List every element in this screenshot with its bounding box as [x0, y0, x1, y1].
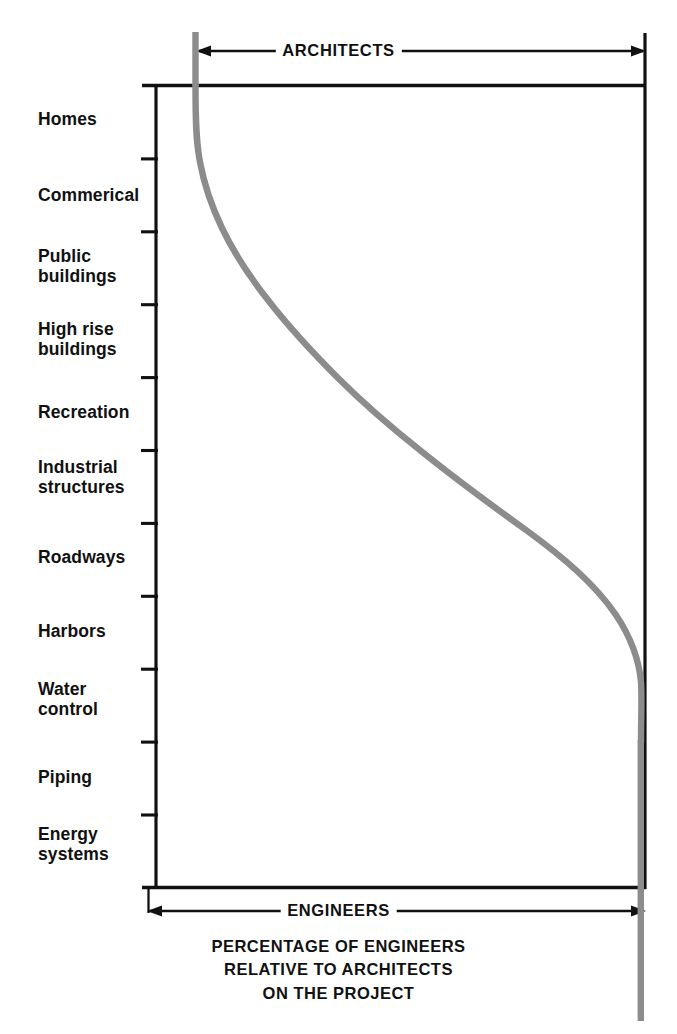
category-label-harbors: Harbors [38, 622, 106, 642]
category-label-commerical: Commerical [38, 186, 139, 206]
architects-dimension-arrow [196, 46, 646, 57]
architects-axis-label: ARCHITECTS [275, 41, 401, 60]
category-label-roadways: Roadways [38, 548, 125, 568]
engineers-axis-label: ENGINEERS [280, 901, 397, 920]
chart-caption: PERCENTAGE OF ENGINEERS RELATIVE TO ARCH… [0, 935, 677, 1005]
category-label-energy-systems: Energy systems [38, 825, 109, 864]
caption-line-1: PERCENTAGE OF ENGINEERS [0, 935, 677, 958]
category-label-high-rise-buildings: High rise buildings [38, 320, 117, 359]
chart-figure: Homes Commerical Public buildings High r… [0, 0, 677, 1034]
category-label-homes: Homes [38, 110, 97, 130]
plot-frame [142, 33, 646, 889]
chart-canvas [0, 0, 677, 1034]
category-label-industrial-structures: Industrial structures [38, 458, 125, 497]
caption-line-3: ON THE PROJECT [0, 982, 677, 1005]
caption-line-2: RELATIVE TO ARCHITECTS [0, 958, 677, 981]
category-label-public-buildings: Public buildings [38, 247, 117, 286]
category-label-piping: Piping [38, 768, 92, 788]
proportion-curve [196, 32, 642, 1021]
curve-path [196, 86, 642, 742]
category-label-water-control: Water control [38, 680, 98, 719]
category-label-recreation: Recreation [38, 403, 129, 423]
